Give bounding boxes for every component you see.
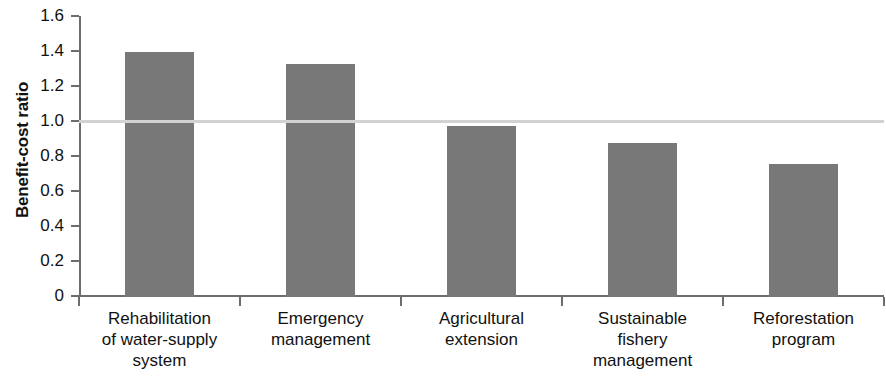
category-label-line: program bbox=[723, 329, 884, 350]
y-tick-label: 0 bbox=[4, 287, 64, 304]
category-label-line: Rehabilitation bbox=[79, 308, 240, 329]
x-tick-mark bbox=[561, 297, 563, 306]
x-tick-mark bbox=[722, 297, 724, 306]
category-label-line: Agricultural bbox=[401, 308, 562, 329]
y-tick-mark bbox=[71, 260, 79, 262]
x-tick-mark bbox=[400, 297, 402, 306]
x-axis-category-label: Rehabilitationof water-supplysystem bbox=[79, 308, 240, 371]
y-tick-mark bbox=[71, 15, 79, 17]
y-tick-mark bbox=[71, 120, 79, 122]
x-axis-category-label: Sustainablefisherymanagement bbox=[562, 308, 723, 371]
y-tick-label: 0.2 bbox=[4, 252, 64, 269]
y-tick-label: 1.0 bbox=[4, 112, 64, 129]
bar bbox=[447, 126, 516, 298]
x-axis-category-label: Reforestationprogram bbox=[723, 308, 884, 350]
category-label-line: management bbox=[240, 329, 401, 350]
y-tick-label: 0.8 bbox=[4, 147, 64, 164]
y-tick-mark bbox=[71, 85, 79, 87]
y-tick-mark bbox=[71, 50, 79, 52]
category-label-line: Emergency bbox=[240, 308, 401, 329]
bar bbox=[125, 52, 194, 297]
y-tick-label: 1.2 bbox=[4, 77, 64, 94]
category-label-line: Sustainable bbox=[562, 308, 723, 329]
y-tick-label: 1.6 bbox=[4, 7, 64, 24]
x-tick-mark bbox=[78, 297, 80, 306]
reference-line-at-one bbox=[79, 120, 884, 123]
y-tick-mark bbox=[71, 155, 79, 157]
x-tick-mark bbox=[239, 297, 241, 306]
bar bbox=[608, 143, 677, 297]
y-tick-label: 1.4 bbox=[4, 42, 64, 59]
category-label-line: Reforestation bbox=[723, 308, 884, 329]
category-label-line: fishery bbox=[562, 329, 723, 350]
x-axis-category-label: Emergencymanagement bbox=[240, 308, 401, 350]
bar bbox=[769, 164, 838, 297]
x-tick-mark bbox=[883, 297, 885, 306]
category-label-line: management bbox=[562, 350, 723, 371]
category-label-line: of water-supply bbox=[79, 329, 240, 350]
y-tick-label: 0.6 bbox=[4, 182, 64, 199]
y-tick-label: 0.4 bbox=[4, 217, 64, 234]
category-label-line: system bbox=[79, 350, 240, 371]
y-tick-mark bbox=[71, 225, 79, 227]
y-tick-mark bbox=[71, 190, 79, 192]
benefit-cost-ratio-bar-chart: Benefit-cost ratio 1.61.41.21.00.80.60.4… bbox=[0, 0, 886, 386]
category-label-line: extension bbox=[401, 329, 562, 350]
plot-area bbox=[79, 16, 884, 297]
bar bbox=[286, 64, 355, 297]
x-axis-category-label: Agriculturalextension bbox=[401, 308, 562, 350]
